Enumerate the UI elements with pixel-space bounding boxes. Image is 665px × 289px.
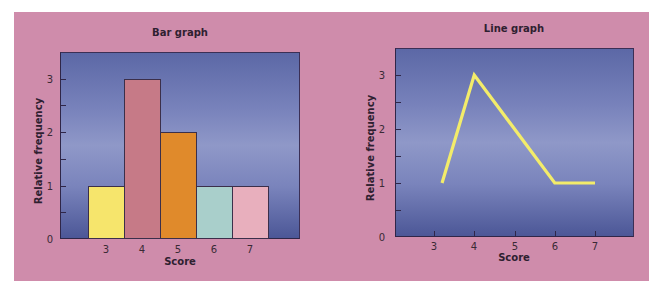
- line-chart-series: [0, 0, 665, 289]
- frequency-line: [442, 75, 595, 183]
